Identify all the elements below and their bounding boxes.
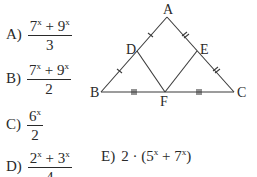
vertex-label-f: F <box>160 94 168 109</box>
vertex-label-e: E <box>200 42 209 57</box>
vertex-label-b: B <box>90 85 99 100</box>
vertex-label-c: C <box>237 85 246 100</box>
tick-ae-2 <box>184 34 189 38</box>
vertex-label-d: D <box>126 42 136 57</box>
segment-ef <box>165 51 197 92</box>
triangle-figure: A B C D E F <box>0 0 257 177</box>
vertex-label-a: A <box>163 2 174 17</box>
segment-df <box>137 51 165 92</box>
